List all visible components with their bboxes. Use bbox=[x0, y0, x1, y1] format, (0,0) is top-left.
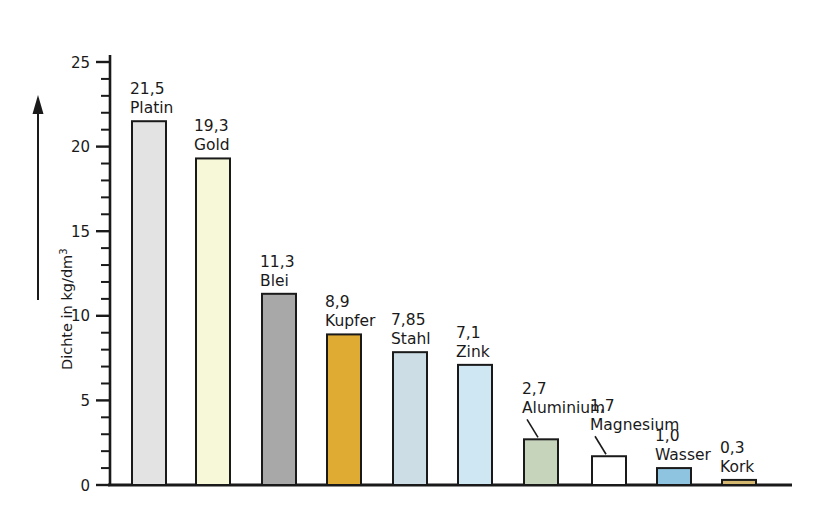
y-axis-title-text: Dichte in kg/dm3 bbox=[58, 248, 75, 370]
bar-kork bbox=[722, 480, 756, 485]
bar-value-kork: 0,3 bbox=[720, 439, 745, 457]
bar-zink bbox=[458, 365, 492, 485]
bar-kupfer bbox=[327, 334, 361, 485]
bar-value-kupfer: 8,9 bbox=[325, 293, 350, 311]
bar-value-aluminium: 2,7 bbox=[522, 380, 547, 398]
y-axis-tick-label: 20 bbox=[71, 138, 90, 156]
y-axis-title-group: Dichte in kg/dm3 bbox=[58, 248, 75, 370]
y-axis-title-exponent: 3 bbox=[58, 248, 69, 254]
bar-label-platin: Platin bbox=[130, 99, 173, 117]
bar-label-kork: Kork bbox=[720, 458, 754, 476]
bar-gold bbox=[196, 158, 230, 485]
bar-platin bbox=[132, 121, 166, 485]
y-axis-tick-label: 5 bbox=[80, 392, 90, 410]
bar-label-blei: Blei bbox=[260, 272, 289, 290]
bar-label-wasser: Wasser bbox=[655, 446, 712, 464]
chart-canvas: 0510152025 21,5Platin19,3Gold11,3Blei8,9… bbox=[0, 0, 814, 517]
bar-wasser bbox=[657, 468, 691, 485]
bar-value-zink: 7,1 bbox=[456, 324, 481, 342]
bar-value-blei: 11,3 bbox=[260, 253, 295, 271]
y-axis-tick-label: 25 bbox=[71, 54, 90, 72]
y-axis-tick-label: 15 bbox=[71, 223, 90, 241]
bar-value-platin: 21,5 bbox=[130, 80, 165, 98]
bar-stahl bbox=[393, 352, 427, 485]
bar-blei bbox=[262, 294, 296, 485]
bar-value-magnesium: 1,7 bbox=[590, 397, 615, 415]
bar-label-kupfer: Kupfer bbox=[325, 312, 376, 330]
bar-value-gold: 19,3 bbox=[194, 117, 229, 135]
bar-value-wasser: 1,0 bbox=[655, 427, 680, 445]
bar-aluminium bbox=[524, 439, 558, 485]
bar-label-zink: Zink bbox=[456, 343, 490, 361]
bar-magnesium bbox=[592, 456, 626, 485]
density-bar-chart: 0510152025 21,5Platin19,3Gold11,3Blei8,9… bbox=[0, 0, 814, 517]
y-axis-tick-label: 0 bbox=[80, 477, 90, 495]
y-axis-title: Dichte in kg/dm3 bbox=[58, 248, 75, 370]
bar-label-stahl: Stahl bbox=[391, 330, 431, 348]
bar-label-gold: Gold bbox=[194, 136, 230, 154]
bar-value-stahl: 7,85 bbox=[391, 311, 426, 329]
